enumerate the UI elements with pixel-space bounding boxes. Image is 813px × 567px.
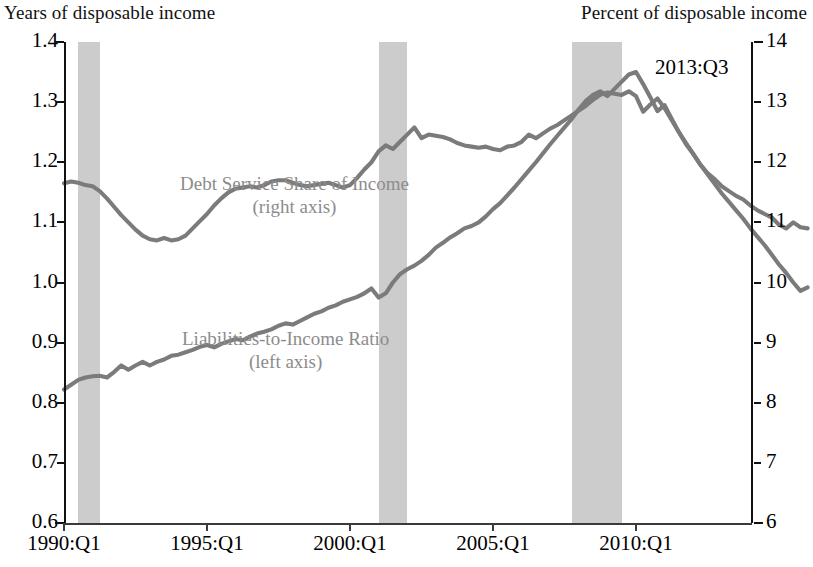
axis-cap <box>754 522 763 524</box>
y-axis-right-tick <box>754 221 761 223</box>
series-lines <box>64 42 752 523</box>
y-axis-left-tick <box>57 462 64 464</box>
series-label-liabilities: Liabilities-to-Income Ratio (left axis) <box>182 327 389 373</box>
y-axis-right-tick <box>754 161 761 163</box>
y-axis-left-tick-label: 0.9 <box>0 329 58 354</box>
y-axis-left-tick-label: 1.2 <box>0 148 58 173</box>
x-axis-tick <box>206 523 208 531</box>
y-axis-right-tick-label: 7 <box>766 449 806 474</box>
x-axis-tick <box>349 523 351 531</box>
x-axis-tick-label: 2010:Q1 <box>599 531 673 556</box>
y-axis-left-tick <box>57 282 64 284</box>
line-liabilities-to-income <box>64 72 808 389</box>
y-axis-left-tick-label: 1.3 <box>0 88 58 113</box>
series-label-liabilities-name: Liabilities-to-Income Ratio <box>182 327 389 350</box>
right-axis-title: Percent of disposable income <box>581 2 807 24</box>
series-label-liabilities-axis: (left axis) <box>182 350 389 373</box>
chart-root: Years of disposable income Percent of di… <box>0 0 813 567</box>
x-axis-tick <box>492 523 494 531</box>
x-axis-tick-label: 1995:Q1 <box>170 531 244 556</box>
last-observation-annotation: 2013:Q3 <box>655 55 729 80</box>
x-axis <box>64 523 752 525</box>
y-axis-right-tick-label: 9 <box>766 329 806 354</box>
y-axis-right-tick-label: 8 <box>766 389 806 414</box>
y-axis-left-tick <box>57 402 64 404</box>
x-axis-tick <box>63 523 65 531</box>
x-axis-tick <box>635 523 637 531</box>
axis-cap <box>754 41 763 43</box>
x-axis-tick-label: 2005:Q1 <box>456 531 530 556</box>
y-axis-right-tick-label: 6 <box>766 509 806 534</box>
y-axis-right-tick-label: 13 <box>766 88 806 113</box>
x-axis-tick-label: 2000:Q1 <box>313 531 387 556</box>
y-axis-left-tick-label: 1.0 <box>0 269 58 294</box>
y-axis-left-tick-label: 1.4 <box>0 28 58 53</box>
y-axis-right-tick <box>754 402 761 404</box>
y-axis-right-tick-label: 12 <box>766 148 806 173</box>
series-label-debt-service-axis: (right axis) <box>180 195 409 218</box>
left-axis-title: Years of disposable income <box>4 2 215 24</box>
y-axis-left-tick-label: 0.8 <box>0 389 58 414</box>
y-axis-right-tick <box>754 101 761 103</box>
y-axis-right-tick <box>754 342 761 344</box>
y-axis-right-tick-label: 14 <box>766 28 806 53</box>
y-axis-left-tick <box>57 221 64 223</box>
line-debt-service-share <box>64 91 808 291</box>
plot-area: Debt Service Share of Income (right axis… <box>64 42 752 523</box>
y-axis-left-tick <box>57 342 64 344</box>
y-axis-right-tick <box>754 462 761 464</box>
y-axis-left-tick <box>57 161 64 163</box>
y-axis-right-tick-label: 11 <box>766 208 806 233</box>
axis-cap <box>55 41 64 43</box>
y-axis-right-tick-label: 10 <box>766 269 806 294</box>
x-axis-tick-label: 1990:Q1 <box>27 531 101 556</box>
y-axis-left <box>64 42 66 523</box>
series-label-debt-service-name: Debt Service Share of Income <box>180 172 409 195</box>
y-axis-left-tick-label: 1.1 <box>0 208 58 233</box>
y-axis-left-tick <box>57 101 64 103</box>
y-axis-right-tick <box>754 282 761 284</box>
series-label-debt-service: Debt Service Share of Income (right axis… <box>180 172 409 218</box>
y-axis-right <box>751 42 753 523</box>
y-axis-left-tick-label: 0.7 <box>0 449 58 474</box>
